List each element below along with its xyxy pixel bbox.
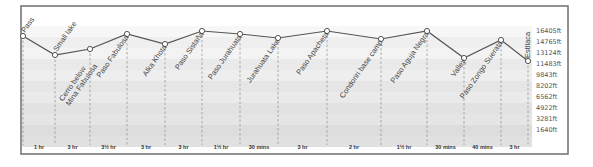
elevation-profile-chart: PassSmall lakeCerro belowMina FabulosaPa… — [0, 0, 593, 167]
segment-duration: 3½ hr — [101, 144, 117, 150]
segment-duration: 1½ hr — [397, 144, 413, 150]
segment-duration: 30 mins — [435, 144, 455, 150]
grid-band — [22, 92, 532, 103]
waypoint-marker — [525, 58, 530, 63]
y-tick-label: 4922ft — [536, 104, 558, 112]
y-tick-label: 3281ft — [536, 115, 558, 123]
waypoint-label: Estllaca — [523, 31, 532, 58]
y-tick-label: 11483ft — [536, 60, 562, 68]
grid-band — [22, 48, 532, 59]
segment-duration: 3 hr — [178, 144, 189, 150]
segment-duration: 3 hr — [141, 144, 152, 150]
svg-text:Estllaca: Estllaca — [523, 31, 532, 58]
segment-duration: 3 hr — [509, 144, 520, 150]
y-tick-label: 6562ft — [536, 93, 558, 101]
waypoint-marker — [20, 33, 25, 38]
grid-band — [22, 81, 532, 92]
waypoint-marker — [87, 46, 92, 51]
waypoint-marker — [52, 52, 57, 57]
grid-band — [22, 125, 532, 136]
y-tick-label: 16405ft — [536, 27, 562, 35]
grid-band — [22, 114, 532, 125]
segment-duration: 40 mins — [472, 144, 492, 150]
grid-band — [22, 103, 532, 114]
y-tick-label: 9843ft — [536, 71, 558, 79]
y-tick-label: 1640ft — [536, 126, 558, 134]
segment-duration: 3 hr — [297, 144, 308, 150]
y-tick-label: 8202ft — [536, 82, 558, 90]
y-tick-label: 14765ft — [536, 38, 562, 46]
y-tick-label: 13124ft — [536, 49, 562, 57]
segment-duration: 1 hr — [34, 144, 45, 150]
segment-duration: 30 mins — [249, 144, 269, 150]
segment-duration: 2 hr — [349, 144, 360, 150]
segment-duration: 3 hr — [67, 144, 78, 150]
segment-duration: 1½ hr — [214, 144, 230, 150]
